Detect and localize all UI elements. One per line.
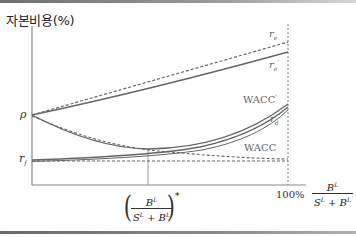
opt-num-sup: L (153, 196, 157, 203)
x-den-b-sup: L (347, 196, 351, 203)
wacc-prime-label-sup: ' (275, 93, 277, 100)
optimal-paren-right: ) (167, 192, 175, 222)
optimal-star: * (175, 191, 180, 201)
wacc-label: WACC (244, 142, 276, 153)
x-axis-title-numerator: BL (312, 179, 353, 194)
re-prime-curve (32, 52, 288, 115)
wacc-prime-label-main: WACC (243, 94, 275, 105)
opt-den-plus: + (144, 213, 159, 224)
rd-prime-curve-inner (32, 110, 288, 162)
re-prime-label: re' (269, 58, 279, 72)
rd-prime-label-sup: ' (279, 112, 281, 119)
chart-canvas (0, 0, 356, 237)
x-axis-title: BL SL + BL (312, 179, 353, 209)
re-label-sub: e (274, 34, 278, 41)
x-den-plus: + (325, 198, 340, 209)
opt-den-s: S (133, 213, 140, 224)
x-den-b: B (340, 198, 347, 209)
bottom-border (0, 231, 356, 234)
re-prime-label-sub: e (274, 65, 278, 72)
rf-label-sub: f (24, 159, 26, 166)
opt-den-b: B (159, 213, 166, 224)
x-tick-100: 100% (276, 189, 305, 200)
rf-label: rf (19, 152, 27, 166)
wacc-prime-label: WACC' (243, 93, 277, 105)
x-den-s: S (314, 198, 321, 209)
rd-prime-label: rd' (270, 112, 280, 126)
x-axis-title-denominator: SL + BL (312, 194, 353, 208)
rd-prime-label-sub: d (275, 119, 279, 126)
re-prime-label-sup: ' (277, 58, 279, 65)
re-label: re (269, 28, 277, 41)
x-num-sup: L (334, 181, 338, 188)
rho-label: ρ (20, 108, 26, 121)
